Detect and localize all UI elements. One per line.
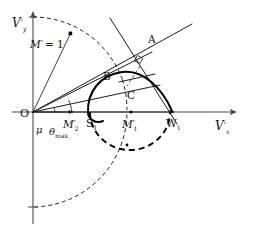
hodograph-diagram: V'y V'x O M'= 1 μ θmax M'2 [0,0,258,236]
mu-angle-arc [54,108,55,113]
W1-label: W1 [166,117,181,131]
unit-circle-label-prime: ' [41,38,43,47]
M2-prime-main: M [62,118,74,130]
W1-sub: 1 [177,124,181,131]
x-axis-label-sub: x [226,128,230,135]
y-axis-label: V'y [12,16,27,33]
velocity-plane-figure: V'y V'x O M'= 1 μ θmax M'2 [0,0,258,236]
W1-main: W [166,117,177,129]
mu-ray [33,85,160,112]
M2-prime-label: M'2 [62,118,78,132]
M2-prime-sub: 2 [74,125,78,132]
point-A-label: A [147,33,156,45]
M1-prime-main: M [121,118,133,130]
unit-circle-label-main: M [29,38,41,50]
M1-prime-tick-dot [130,111,133,114]
point-B-label: B [103,70,111,82]
A-C-dashed-line [127,66,140,86]
S1-main: S [86,117,93,129]
M1-prime-sub: 1 [133,125,137,132]
M1-prime-label: M'1 [121,118,137,132]
origin-label: O [20,107,29,120]
A-construction-group [110,18,177,124]
OA-ray [33,52,152,112]
unit-circle-label: M'= 1 [29,38,64,50]
unit-circle-label-equals: = 1 [45,38,64,50]
x-axis-label: V'x [215,119,230,135]
unit-circle-point-dot [69,32,73,36]
y-axis-label-sub: y [22,25,27,33]
lower-circle-bottom-dot [126,144,129,147]
theta-max-angle-arc [69,100,73,112]
S1-sub: 1 [93,124,97,131]
sonic-circle-arc-lower [33,115,127,208]
A-to-C-dashed-group [127,66,140,86]
mu-label: μ [36,124,43,135]
W1-A-line [110,18,177,124]
S1-label: S1 [86,117,97,131]
point-C-label: C [127,89,135,101]
theta-max-sub: max [55,132,69,139]
